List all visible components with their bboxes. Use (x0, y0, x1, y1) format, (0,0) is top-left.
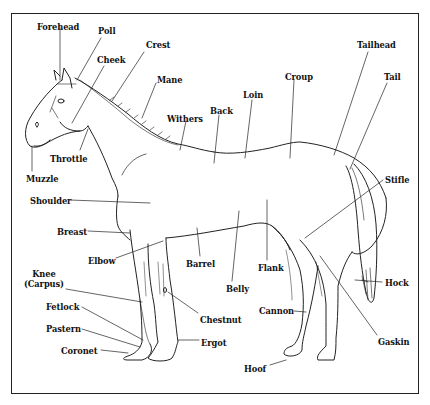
horse-front-leg-near (124, 230, 152, 360)
horse-hind-leg-near (272, 226, 318, 356)
label-fetlock: Fetlock (46, 302, 79, 312)
label-forehead: Forehead (37, 22, 79, 32)
label-gaskin: Gaskin (378, 337, 409, 347)
label-flank: Flank (258, 263, 284, 273)
horse-belly-outline (166, 223, 290, 250)
label-ergot: Ergot (201, 338, 226, 348)
label-mane: Mane (157, 75, 182, 85)
label-knee: Knee (Carpus) (24, 269, 64, 289)
label-cannon: Cannon (259, 306, 294, 316)
horse-head-outline (26, 80, 81, 147)
label-withers: Withers (167, 114, 203, 124)
label-hock: Hock (385, 278, 409, 288)
label-tail: Tail (384, 72, 401, 82)
label-loin: Loin (243, 90, 263, 100)
label-muzzle: Muzzle (26, 174, 58, 184)
label-cheek: Cheek (97, 55, 125, 65)
label-chestnut: Chestnut (200, 315, 242, 325)
label-throttle: Throttle (50, 154, 87, 164)
label-shoulder: Shoulder (30, 196, 71, 206)
label-tailhead: Tailhead (357, 40, 396, 50)
label-pastern: Pastern (46, 324, 81, 334)
label-croup: Croup (285, 72, 313, 82)
label-stifle: Stifle (385, 175, 409, 185)
label-belly: Belly (226, 284, 249, 294)
horse-chest-outline (117, 196, 131, 240)
label-poll: Poll (98, 26, 115, 36)
label-breast: Breast (57, 227, 87, 237)
label-barrel: Barrel (186, 259, 215, 269)
label-back: Back (210, 106, 233, 116)
horse-topline (214, 142, 386, 198)
label-hoof: Hoof (244, 364, 266, 374)
label-crest: Crest (146, 40, 170, 50)
label-elbow: Elbow (88, 256, 115, 266)
label-coronet: Coronet (61, 346, 98, 356)
